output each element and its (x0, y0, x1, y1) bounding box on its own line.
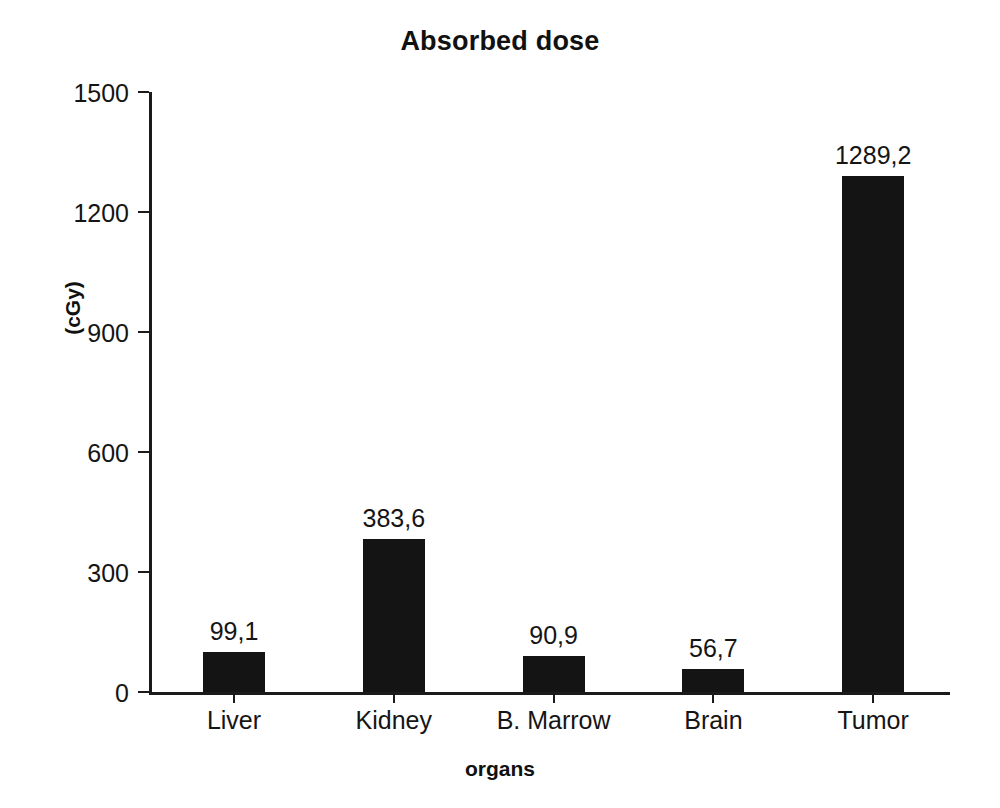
bar-value-label: 56,7 (689, 634, 738, 663)
y-axis-tick: 1500 (138, 91, 149, 93)
x-axis-tick (393, 693, 395, 703)
y-axis-tick: 600 (138, 451, 149, 453)
x-axis-tick (233, 693, 235, 703)
x-axis-tick (553, 693, 555, 703)
x-axis-tick-label: Kidney (356, 706, 432, 735)
x-axis-line (149, 692, 950, 695)
bar-value-label: 383,6 (363, 504, 426, 533)
x-axis-tick-label: Tumor (838, 706, 909, 735)
bar-value-label: 1289,2 (835, 141, 911, 170)
x-axis-tick-label: Brain (684, 706, 742, 735)
bar-value-label: 99,1 (210, 617, 259, 646)
bar (842, 176, 904, 692)
bar-group: 56,7 (682, 92, 744, 692)
bar (523, 656, 585, 692)
y-axis-tick: 300 (138, 571, 149, 573)
y-axis-tick-label: 1200 (73, 199, 129, 228)
bar-group: 1289,2 (842, 92, 904, 692)
x-axis-tick-label: Liver (207, 706, 261, 735)
y-axis-title: (cGy) (61, 281, 85, 335)
y-axis-tick-label: 900 (87, 319, 129, 348)
x-axis-title: organs (0, 757, 1000, 781)
plot-area: 030060090012001500 99,1383,690,956,71289… (151, 92, 950, 692)
y-axis-tick-label: 1500 (73, 79, 129, 108)
x-axis-tick (872, 693, 874, 703)
bar-group: 90,9 (523, 92, 585, 692)
bar-value-label: 90,9 (529, 621, 578, 650)
bar (203, 652, 265, 692)
chart-title: Absorbed dose (0, 26, 1000, 57)
bar (363, 539, 425, 692)
bar-group: 99,1 (203, 92, 265, 692)
chart-figure: Absorbed dose (cGy) 030060090012001500 9… (0, 0, 1000, 808)
y-axis-tick-label: 600 (87, 439, 129, 468)
bar-group: 383,6 (363, 92, 425, 692)
y-axis-tick: 900 (138, 331, 149, 333)
bar (682, 669, 744, 692)
y-axis-tick-label: 0 (115, 679, 129, 708)
y-axis-tick: 1200 (138, 211, 149, 213)
y-axis-line (149, 92, 152, 693)
y-axis-tick-label: 300 (87, 559, 129, 588)
y-axis-tick: 0 (138, 691, 149, 693)
x-axis-tick (712, 693, 714, 703)
x-axis-tick-label: B. Marrow (497, 706, 611, 735)
